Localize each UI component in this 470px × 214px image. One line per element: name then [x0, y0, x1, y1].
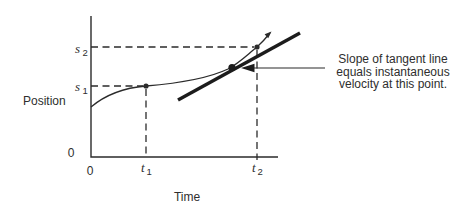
curve-end-arrowhead-icon: [265, 32, 272, 39]
tangent-point-dot: [228, 64, 235, 71]
annotation-text-line-3: velocity at this point.: [339, 77, 447, 91]
tangent-line: [178, 33, 300, 100]
x-axis-title: Time: [174, 190, 201, 204]
s1-label-subscript: 1: [83, 85, 88, 96]
s2-label-subscript: 2: [83, 47, 88, 58]
y-origin-label: 0: [68, 146, 75, 160]
t1-label: t: [141, 160, 145, 175]
t1-label-subscript: 1: [147, 166, 152, 177]
position-curve: [91, 33, 270, 107]
s2-label: s: [75, 41, 80, 56]
point-t2-dot: [254, 44, 259, 49]
figure-canvas: s 2 s 1 Position 0 0 Time t 1 t 2 Slope …: [0, 0, 470, 214]
x-origin-label: 0: [87, 164, 94, 178]
t2-label: t: [252, 160, 256, 175]
t2-label-subscript: 2: [258, 166, 263, 177]
y-axis-title: Position: [23, 94, 66, 108]
point-t1-dot: [143, 83, 148, 88]
position-time-figure: s 2 s 1 Position 0 0 Time t 1 t 2 Slope …: [0, 0, 470, 214]
s1-label: s: [75, 79, 80, 94]
